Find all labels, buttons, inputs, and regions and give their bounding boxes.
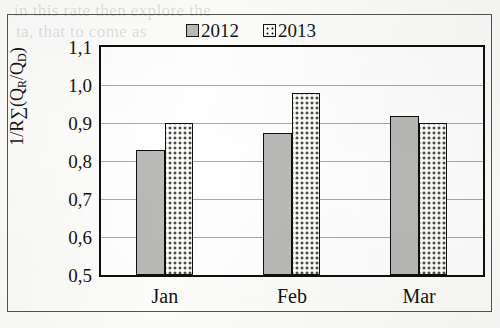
bar-2012-Mar [390,116,419,275]
bar-2013-Jan [165,123,194,275]
x-axis-tick-label-jan: Jan [101,286,228,306]
chart-legend: 2012 2013 [186,18,316,42]
y-axis-tick-label: 1,0 [46,76,92,95]
y-axis-title: 1/R∑(QR/QD) [7,12,28,182]
x-axis-tick-labels: JanFebMar [99,286,485,316]
legend-label-2012: 2012 [201,21,239,40]
y-axis-tick-label: 0,9 [46,114,92,133]
y-axis-title-text: 1/R∑(QR/QD) [7,47,27,146]
legend-entry-2012: 2012 [186,21,239,40]
gray-square-icon [186,24,199,37]
bar-2013-Mar [419,123,448,275]
bar-2012-Jan [136,150,165,275]
y-axis-tick-label: 0,5 [46,266,92,285]
y-axis-tick-label: 0,6 [46,228,92,247]
x-axis-tick-label-mar: Mar [356,286,483,306]
y-axis-tick-label: 0,8 [46,152,92,171]
legend-entry-2013: 2013 [263,21,316,40]
dotted-square-icon [263,24,276,37]
x-axis-tick-label-feb: Feb [228,286,355,306]
y-axis-tick-label: 0,7 [46,190,92,209]
legend-label-2013: 2013 [278,21,316,40]
bar-2013-Feb [292,93,321,275]
plot-area [99,45,485,277]
bar-2012-Feb [263,133,292,275]
y-axis-tick-label: 1,1 [46,38,92,57]
y-axis-tick-labels: 0,50,60,70,80,91,01,1 [42,45,92,277]
bar-series-layer [101,47,483,275]
